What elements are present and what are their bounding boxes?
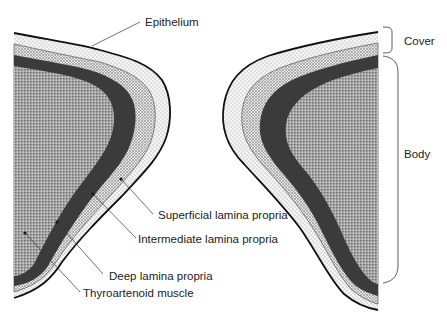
label-thyroarytenoid-muscle: Thyroartenoid muscle [83, 287, 194, 299]
label-superficial-lamina-propria: Superficial lamina propria [158, 209, 288, 221]
label-epithelium: Epithelium [145, 16, 199, 28]
leader-epithelium [92, 22, 140, 46]
left-vocal-fold [14, 33, 170, 298]
leader-superficial [121, 179, 153, 214]
body-bracket [383, 56, 398, 283]
label-body: Body [404, 148, 430, 160]
brackets [383, 27, 398, 283]
cover-bracket [383, 27, 392, 53]
right-vocal-fold [223, 32, 378, 310]
label-deep-lamina-propria: Deep lamina propria [109, 270, 213, 282]
label-intermediate-lamina-propria: Intermediate lamina propria [138, 233, 279, 245]
label-cover: Cover [404, 35, 435, 47]
vocal-fold-diagram: Epithelium Superficial lamina propria In… [0, 0, 447, 317]
